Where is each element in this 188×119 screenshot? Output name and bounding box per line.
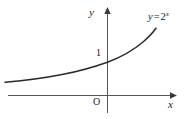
y-axis-arrowhead: [104, 7, 110, 14]
origin-label: O: [93, 97, 100, 107]
curve-equation-label: y=2x: [148, 12, 169, 23]
curve-label-exponent: x: [166, 10, 169, 18]
y-axis-label: y: [89, 7, 94, 18]
curve-label-equals: =: [153, 11, 161, 22]
x-axis-label: x: [168, 99, 173, 110]
graph-figure: y x O 1 y=2x: [0, 0, 188, 119]
curve-label-variable: y: [148, 11, 153, 22]
y-intercept-tick-label: 1: [96, 48, 101, 58]
exponential-curve: [5, 28, 156, 82]
